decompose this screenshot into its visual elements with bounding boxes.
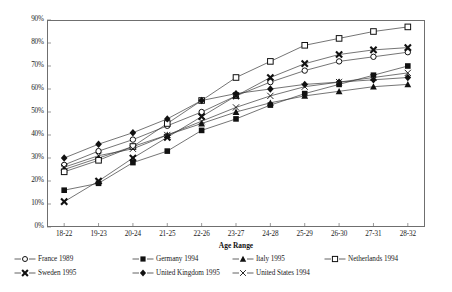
- legend-symbol-icon: [232, 254, 254, 264]
- x-tick-label: 19-23: [90, 230, 106, 238]
- data-point-marker: [164, 148, 170, 154]
- legend-marker-thin-cross-icon: [232, 268, 254, 278]
- data-point-marker: [140, 270, 146, 277]
- series-line: [64, 27, 408, 172]
- data-point-marker: [267, 93, 273, 99]
- data-point-marker: [61, 187, 67, 193]
- legend-item-italy-1995[interactable]: Italy 1995: [232, 254, 285, 264]
- x-tick-label: 26-30: [331, 230, 347, 238]
- series-sweden-1995: [61, 45, 411, 205]
- data-point-marker: [336, 59, 341, 64]
- data-point-marker: [405, 63, 411, 69]
- legend-symbol-icon: [324, 254, 346, 264]
- legend-marker-filled-diamond-icon: [132, 268, 154, 278]
- x-tick-label: 25-29: [297, 230, 313, 238]
- data-point-marker: [240, 270, 246, 276]
- series-line: [64, 52, 408, 165]
- x-tick-label: 18-22: [56, 230, 72, 238]
- legend-item-sweden-1995[interactable]: Sweden 1995: [14, 268, 76, 278]
- series-line: [64, 66, 408, 190]
- data-point-marker: [22, 270, 28, 276]
- legend-label: France 1989: [38, 255, 73, 263]
- data-point-marker: [267, 85, 274, 92]
- legend-symbol-icon: [132, 254, 154, 264]
- legend-item-united-states-1994[interactable]: United States 1994: [232, 268, 310, 278]
- data-point-marker: [268, 59, 274, 65]
- data-point-marker: [233, 75, 239, 81]
- series-line: [64, 48, 408, 202]
- x-tick-label: 20-24: [125, 230, 141, 238]
- data-point-marker: [371, 54, 376, 59]
- data-point-marker: [140, 256, 145, 261]
- data-point-marker: [405, 24, 411, 30]
- legend-label: Germany 1994: [156, 255, 198, 263]
- legend-label: Netherlands 1994: [348, 255, 398, 263]
- data-point-marker: [61, 169, 67, 175]
- data-point-marker: [61, 154, 68, 161]
- data-point-marker: [240, 256, 246, 262]
- legend-item-germany-1994[interactable]: Germany 1994: [132, 254, 198, 264]
- legend-marker-bold-cross-icon: [14, 268, 36, 278]
- data-point-marker: [199, 128, 205, 134]
- legend-symbol-icon: [132, 268, 154, 278]
- legend-marker-filled-triangle-icon: [232, 254, 254, 264]
- x-tick-label: 21-25: [159, 230, 175, 238]
- data-point-marker: [371, 29, 377, 35]
- data-point-marker: [96, 158, 102, 164]
- data-point-marker: [23, 257, 28, 262]
- legend-symbol-icon: [14, 254, 36, 264]
- data-point-marker: [404, 81, 411, 87]
- x-tick-label: 23-27: [228, 230, 244, 238]
- line-chart: 0%10%20%30%40%50%60%70%80%90% 18-2219-23…: [0, 0, 452, 292]
- legend-marker-filled-square-icon: [132, 254, 154, 264]
- legend-item-united-kingdom-1995[interactable]: United Kingdom 1995: [132, 268, 220, 278]
- data-point-marker: [332, 256, 337, 261]
- data-point-marker: [336, 36, 342, 42]
- legend-label: Italy 1995: [256, 255, 285, 263]
- data-point-marker: [95, 141, 102, 148]
- series-france-1989: [61, 50, 410, 168]
- data-point-marker: [233, 116, 239, 122]
- data-point-marker: [302, 61, 308, 67]
- data-point-marker: [130, 137, 135, 142]
- legend-marker-open-square-icon: [324, 254, 346, 264]
- x-tick-label: 27-31: [365, 230, 381, 238]
- chart-legend: France 1989Germany 1994Italy 1995Netherl…: [14, 254, 444, 284]
- data-point-marker: [96, 148, 101, 153]
- x-axis-title: Age Range: [47, 241, 425, 250]
- legend-symbol-icon: [232, 268, 254, 278]
- legend-symbol-icon: [14, 268, 36, 278]
- series-netherlands-1994: [61, 24, 410, 175]
- legend-label: United Kingdom 1995: [156, 269, 220, 277]
- data-point-marker: [130, 129, 137, 136]
- data-point-marker: [61, 199, 67, 205]
- legend-item-france-1989[interactable]: France 1989: [14, 254, 73, 264]
- legend-label: United States 1994: [256, 269, 310, 277]
- data-point-marker: [302, 68, 307, 73]
- x-tick-label: 22-26: [193, 230, 209, 238]
- data-point-marker: [302, 43, 308, 49]
- legend-label: Sweden 1995: [38, 269, 76, 277]
- legend-marker-open-circle-icon: [14, 254, 36, 264]
- x-tick-label: 24-28: [262, 230, 278, 238]
- series-germany-1994: [61, 63, 410, 193]
- x-tick-label: 28-32: [400, 230, 416, 238]
- legend-item-netherlands-1994[interactable]: Netherlands 1994: [324, 254, 398, 264]
